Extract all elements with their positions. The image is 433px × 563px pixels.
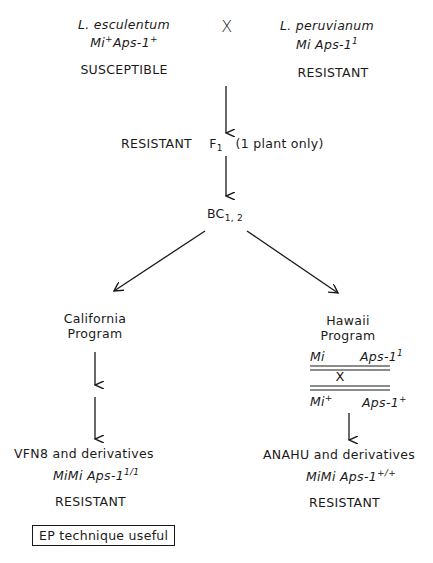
female-parent-phenotype: SUSCEPTIBLE [80, 62, 167, 77]
gene-mi: Mi [90, 35, 105, 50]
gene-mi-aps: Mi Aps-1 [296, 37, 352, 52]
hawaii-result: ANAHU and derivatives [263, 447, 415, 462]
cross-symbol: X [221, 17, 232, 36]
ep-technique-note-box: EP technique useful [32, 525, 175, 546]
allele-sup: + [150, 34, 158, 44]
bc-text: BC [207, 206, 225, 221]
f1-generation-sub: 1 [217, 143, 223, 153]
chromosome-bottom-left-gene: Mi+ [310, 394, 333, 409]
female-parent-species: L. esculentum [78, 17, 170, 32]
allele-sup: + [325, 393, 333, 403]
california-phenotype: RESISTANT [55, 494, 126, 509]
genotype-text: MiMi Aps-1 [306, 469, 377, 484]
hawaii-title-line2: Program [321, 328, 376, 343]
gene-aps: Aps-1 [360, 349, 397, 364]
allele-sup: 1 [352, 36, 358, 46]
allele-sup: +/+ [377, 468, 396, 478]
california-result: VFN8 and derivatives [14, 446, 154, 461]
f1-line: RESISTANT F1 (1 plant only) [121, 136, 324, 151]
hawaii-phenotype: RESISTANT [309, 495, 380, 510]
arrow-bc-to-hawaii [247, 231, 338, 293]
allele-sup: + [105, 34, 113, 44]
chromosome-top-right-gene: Aps-11 [360, 349, 403, 364]
allele-sup: + [399, 394, 407, 404]
chromosome-bottom-right-gene: Aps-1+ [362, 395, 407, 410]
hawaii-title-line1: Hawaii [326, 313, 370, 328]
allele-sup: 1 [397, 348, 403, 358]
gene-aps: Aps-1 [113, 35, 150, 50]
arrow-bc-to-california [114, 231, 205, 291]
f1-phenotype: RESISTANT [121, 136, 192, 151]
california-title-line2: Program [68, 326, 123, 341]
california-genotype: MiMi Aps-11/1 [53, 468, 139, 483]
male-parent-phenotype: RESISTANT [297, 65, 368, 80]
hawaii-genotype: MiMi Aps-1+/+ [306, 469, 396, 484]
bc-sub: 1, 2 [225, 213, 243, 223]
backcross-label: BC1, 2 [207, 206, 243, 221]
male-parent-species: L. peruvianum [280, 18, 374, 33]
female-parent-genotype: Mi+Aps-1+ [90, 35, 158, 50]
chromosome-top-left-gene: Mi [310, 349, 325, 364]
crossover-symbol: X [335, 369, 344, 384]
gene-aps: Aps-1 [362, 395, 399, 410]
f1-generation: F [209, 136, 217, 151]
california-title-line1: California [64, 311, 126, 326]
gene-mi: Mi [310, 394, 325, 409]
allele-sup: 1/1 [124, 467, 139, 477]
male-parent-genotype: Mi Aps-11 [296, 37, 358, 52]
genotype-text: MiMi Aps-1 [53, 468, 124, 483]
f1-note: (1 plant only) [236, 136, 324, 151]
